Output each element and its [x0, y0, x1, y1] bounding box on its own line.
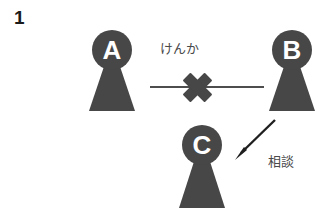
person-c: C [176, 123, 228, 211]
conflict-label: けんか [160, 42, 199, 55]
figure-canvas: 1 A B C [0, 0, 324, 221]
person-keyhole-icon: A [86, 28, 138, 114]
conflict-relation [148, 68, 266, 112]
advice-label: 相談 [268, 155, 294, 168]
person-a: A [86, 28, 138, 114]
person-c-letter: C [193, 130, 212, 160]
person-keyhole-icon: C [176, 123, 228, 211]
person-b: B [266, 28, 318, 114]
person-keyhole-icon: B [266, 28, 318, 114]
conflict-relation-graphic [148, 68, 266, 108]
person-a-letter: A [103, 35, 122, 65]
person-b-letter: B [283, 35, 302, 65]
figure-number-label: 1 [14, 8, 25, 27]
